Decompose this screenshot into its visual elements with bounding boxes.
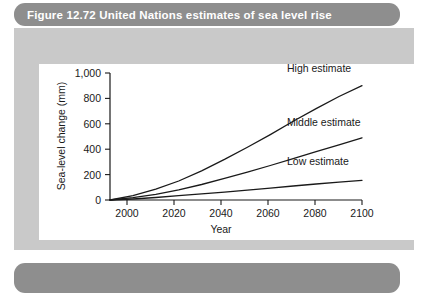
- series-label-middle-estimate: Middle estimate: [287, 116, 361, 128]
- y-tick-label: 1,000: [75, 67, 101, 79]
- x-tick-label: 2060: [256, 207, 280, 219]
- y-axis-title: Sea-level change (mm): [55, 82, 67, 191]
- y-axis-ticks: [105, 73, 110, 200]
- line-chart: 1,000 800 600 400 200 0 2000 2020 2040: [39, 64, 419, 240]
- x-tick-label: 2080: [303, 207, 327, 219]
- figure-title: Figure 12.72 United Nations estimates of…: [27, 9, 332, 21]
- x-axis-tick-labels: 2000 2020 2040 2060 2080 2100: [115, 207, 374, 219]
- y-tick-label: 800: [83, 92, 101, 104]
- x-axis-ticks: [127, 200, 362, 205]
- y-axis-tick-labels: 1,000 800 600 400 200 0: [75, 67, 101, 206]
- y-tick-label: 400: [83, 143, 101, 155]
- chart-canvas: 1,000 800 600 400 200 0 2000 2020 2040: [39, 64, 419, 240]
- x-tick-label: 2100: [350, 207, 374, 219]
- x-axis-title: Year: [210, 223, 232, 235]
- y-tick-label: 0: [95, 194, 101, 206]
- figure-panel: 1,000 800 600 400 200 0 2000 2020 2040: [14, 28, 414, 250]
- y-tick-label: 600: [83, 118, 101, 130]
- x-tick-label: 2040: [209, 207, 233, 219]
- x-tick-label: 2020: [162, 207, 186, 219]
- next-figure-title-bar: [14, 263, 400, 293]
- figure-title-bar: Figure 12.72 United Nations estimates of…: [14, 3, 400, 26]
- series-line-low-estimate: [110, 180, 362, 200]
- x-tick-label: 2000: [115, 207, 139, 219]
- series-label-high-estimate: High estimate: [287, 64, 351, 74]
- series-label-low-estimate: Low estimate: [287, 155, 349, 167]
- y-tick-label: 200: [83, 169, 101, 181]
- axis-lines: [110, 73, 362, 200]
